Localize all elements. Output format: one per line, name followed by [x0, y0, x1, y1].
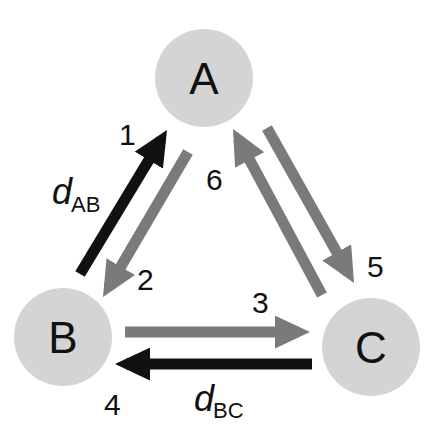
step-label-1: 1	[119, 118, 136, 151]
distance-label-bc: dBC	[194, 378, 244, 423]
step-label-5: 5	[367, 250, 384, 283]
step-label-4: 4	[104, 388, 121, 421]
distance-variable: d	[194, 378, 215, 419]
triangle-diagram: ABC 123456dABdBC	[0, 0, 439, 433]
node-b: B	[14, 288, 112, 386]
node-c: C	[322, 298, 420, 396]
node-a: A	[155, 29, 253, 127]
step-label-6: 6	[206, 163, 223, 196]
distance-variable: d	[52, 171, 73, 212]
step-label-2: 2	[137, 263, 154, 296]
distance-label-ab: dAB	[52, 171, 100, 217]
distance-subscript: AB	[71, 192, 100, 217]
step-label-3: 3	[252, 286, 269, 319]
node-label: B	[48, 313, 77, 362]
distance-subscript: BC	[213, 398, 244, 423]
arrow-5-a-to-c	[267, 128, 349, 273]
node-label: A	[189, 54, 219, 103]
node-label: C	[355, 323, 387, 372]
